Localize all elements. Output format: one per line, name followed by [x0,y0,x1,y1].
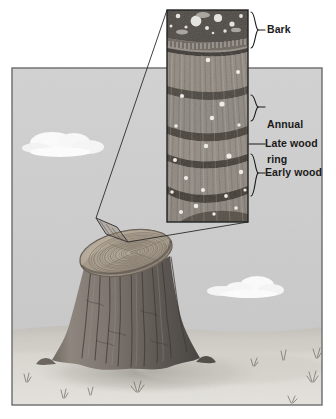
label-bark: Bark [267,24,291,36]
magnified-wood-section [167,10,258,222]
label-annual-ring-line1: Annual [267,119,303,131]
label-annual-ring-line2: ring [267,154,303,166]
label-late-wood: Late wood [265,138,318,150]
diagram-canvas [0,0,336,419]
label-early-wood: Early wood [265,167,322,179]
tree-ring-diagram: Bark Annual ring Late wood Early wood [0,0,336,419]
bark-brace [251,12,258,48]
